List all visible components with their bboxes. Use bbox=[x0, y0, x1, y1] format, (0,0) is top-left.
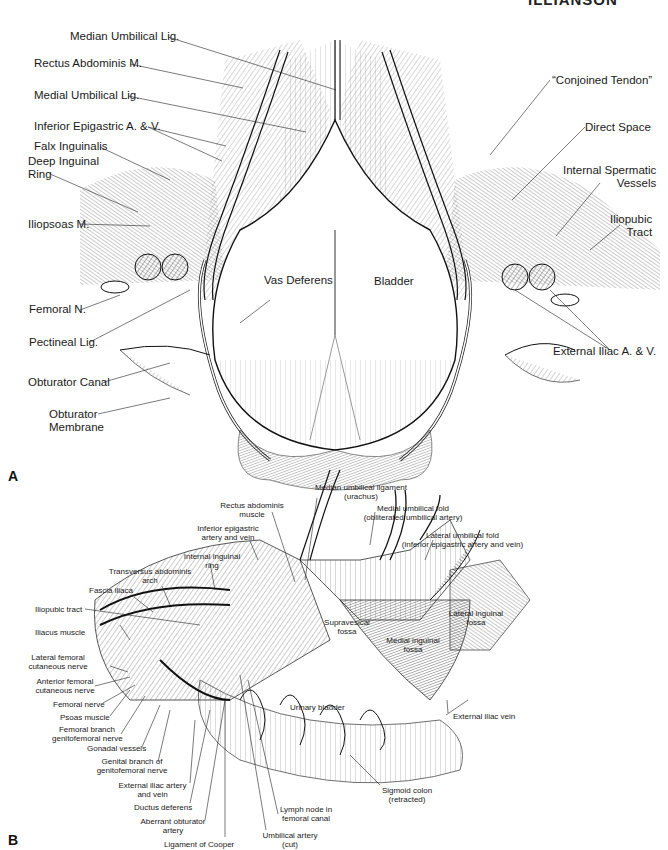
label-obturator-membrane: Obturator Membrane bbox=[49, 408, 104, 434]
label-pectineal-lig: Pectineal Lig. bbox=[29, 336, 98, 349]
label-femoral-branch-genitofemoral: Femoral branch genitofemoral nerve bbox=[52, 725, 122, 743]
label-obturator-canal: Obturator Canal bbox=[28, 376, 110, 389]
label-external-iliac-vein: External iliac vein bbox=[453, 712, 515, 721]
label-iliopubic-tract-b: Iliopubic tract bbox=[35, 605, 82, 614]
label-medial-umbilical-fold: Medial umbilical fold (obliterated umbil… bbox=[358, 504, 468, 522]
label-ductus-deferens: Ductus deferens bbox=[134, 803, 192, 812]
label-lateral-femoral-cutaneous-nerve: Lateral femoral cutaneous nerve bbox=[27, 653, 89, 671]
label-rectus-abdominis-muscle: Rectus abdominis muscle bbox=[212, 501, 292, 519]
label-fascia-iliaca: Fascia iliaca bbox=[89, 586, 133, 595]
label-inferior-epigastric: Inferior Epigastric A. & V. bbox=[34, 120, 161, 133]
label-urinary-bladder: Urinary bladder bbox=[290, 703, 345, 712]
label-external-iliac: External Iliac A. & V. bbox=[553, 345, 656, 358]
label-vas-deferens: Vas Deferens bbox=[264, 274, 333, 287]
label-psoas-muscle: Psoas muscle bbox=[60, 713, 110, 722]
label-bladder: Bladder bbox=[374, 275, 414, 288]
label-direct-space: Direct Space bbox=[585, 121, 651, 134]
label-median-umbilical-lig: Median Umbilical Lig. bbox=[70, 30, 179, 43]
label-transversus-abdominis-arch: Transversus abdominis arch bbox=[105, 567, 195, 585]
panel-letter-a: A bbox=[8, 468, 18, 484]
label-rectus-abdominis: Rectus Abdominis M. bbox=[34, 57, 142, 70]
label-deep-inguinal-ring: Deep Inguinal Ring bbox=[28, 155, 99, 181]
label-lateral-umbilical-fold: Lateral umbilical fold (inferior epigast… bbox=[395, 531, 530, 549]
label-aberrant-obturator-artery: Aberrant obturator artery bbox=[138, 817, 208, 835]
label-medial-umbilical-lig: Medial Umbilical Lig. bbox=[34, 89, 139, 102]
label-iliopsoas: Iliopsoas M. bbox=[28, 218, 89, 231]
label-anterior-femoral-cutaneous-nerve: Anterior femoral cutaneous nerve bbox=[34, 677, 96, 695]
label-external-iliac-artery-vein: External iliac artery and vein bbox=[115, 781, 190, 799]
label-iliopubic-tract: Iliopubic Tract bbox=[610, 213, 652, 239]
label-genital-branch-genitofemoral: Genital branch of genitofemoral nerve bbox=[96, 757, 168, 775]
label-conjoined-tendon: “Conjoined Tendon” bbox=[552, 74, 652, 87]
label-supravesical-fossa: Supravesical fossa bbox=[322, 618, 372, 636]
label-inferior-epigastric-artery: Inferior epigastric artery and vein bbox=[188, 524, 268, 542]
label-lymph-node-femoral-canal: Lymph node in femoral canal bbox=[276, 805, 336, 823]
panel-a-drawing bbox=[80, 40, 660, 490]
label-femoral-n: Femoral N. bbox=[29, 303, 86, 316]
label-internal-spermatic-vessels: Internal Spermatic Vessels bbox=[563, 164, 656, 190]
label-ligament-of-cooper: Ligament of Cooper bbox=[164, 840, 234, 849]
label-medial-inguinal-fossa: Medial inguinal fossa bbox=[383, 636, 443, 654]
label-median-umbilical-ligament: Median umbilical ligament (urachus) bbox=[306, 483, 416, 501]
label-lateral-inguinal-fossa: Lateral inguinal fossa bbox=[446, 609, 506, 627]
label-iliacus-muscle: Iliacus muscle bbox=[35, 628, 85, 637]
label-umbilical-artery-cut: Umbilical artery (cut) bbox=[260, 831, 320, 849]
label-gonadal-vessels: Gonadal vessels bbox=[87, 744, 146, 753]
label-femoral-nerve: Femoral nerve bbox=[53, 700, 105, 709]
label-sigmoid-colon: Sigmoid colon (retracted) bbox=[377, 786, 437, 804]
panel-letter-b: B bbox=[8, 832, 18, 848]
label-falx-inguinalis: Falx Inguinalis bbox=[34, 140, 108, 153]
